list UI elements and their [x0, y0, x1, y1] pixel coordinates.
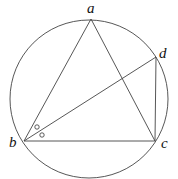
angle-abd-mark [35, 125, 39, 129]
segments [24, 19, 156, 141]
circumcircle [10, 20, 168, 178]
label-c: c [161, 135, 168, 151]
segment-ab [24, 19, 91, 141]
segment-bd [24, 57, 156, 141]
label-a: a [87, 0, 95, 16]
geometry-diagram: a b c d [0, 0, 178, 179]
label-b: b [9, 134, 17, 150]
angle-dbc-mark [40, 133, 44, 137]
segment-ac [91, 19, 155, 141]
segment-dc [155, 57, 156, 141]
label-d: d [159, 45, 167, 61]
